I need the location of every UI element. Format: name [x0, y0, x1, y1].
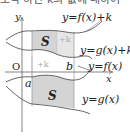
y-axis-label: y [15, 12, 21, 22]
a-label: a [25, 78, 32, 89]
curve-f-label: y=f(x) [88, 61, 122, 72]
upper-shift-label: +k [59, 36, 71, 44]
lower-shift-label: +k [37, 61, 49, 69]
curve-g-plus-k-label: y=g(x)+k [80, 45, 130, 56]
b-label: b [66, 61, 73, 72]
origin-label: O [12, 62, 20, 72]
lower-region-label: S [48, 90, 57, 102]
upper-region-label: S [41, 36, 50, 48]
x-axis-label: x [106, 74, 112, 84]
curve-g-label: y=g(x) [82, 94, 119, 105]
area-translation-diagram: 조작 하인 k의 값에 대하여 y y=f(x)+k S + [0, 0, 130, 138]
curve-f-plus-k-label: y=f(x)+k [62, 12, 112, 23]
